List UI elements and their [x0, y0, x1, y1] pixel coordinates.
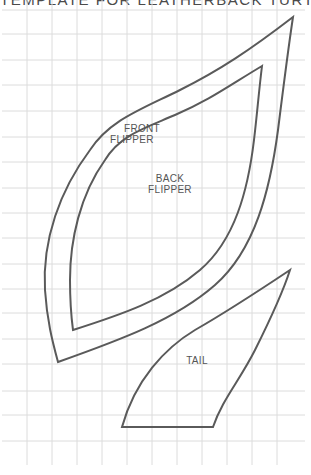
back-flipper-outline — [70, 66, 262, 330]
front-flipper-label: FRONT FLIPPER — [110, 123, 170, 145]
front-flipper-label-line2: FLIPPER — [110, 134, 170, 145]
front-flipper-label-line1: FRONT — [110, 123, 170, 134]
grid — [2, 0, 305, 465]
back-flipper-label-line1: BACK — [140, 173, 200, 184]
back-flipper-label: BACK FLIPPER — [140, 173, 200, 195]
tail-label-text: TAIL — [177, 355, 217, 366]
back-flipper-label-line2: FLIPPER — [140, 184, 200, 195]
tail-label: TAIL — [177, 355, 217, 366]
template-canvas — [0, 0, 311, 475]
